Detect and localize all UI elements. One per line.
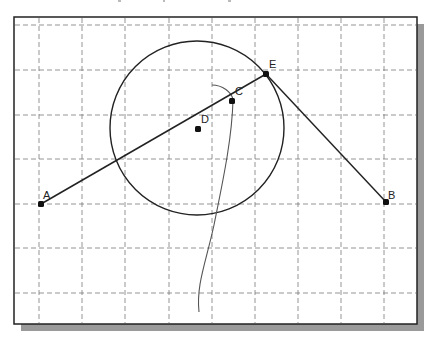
point-label: D (201, 113, 209, 125)
point-marker (263, 71, 269, 77)
cropped-text-fragments (118, 0, 231, 2)
point-marker (195, 126, 201, 132)
point-marker (229, 98, 235, 104)
point-marker (38, 201, 44, 207)
geometry-diagram: ADCEB (0, 0, 435, 342)
point-label: A (43, 189, 51, 201)
point-label: E (269, 58, 276, 70)
point-label: C (235, 85, 243, 97)
point-label: B (388, 189, 395, 201)
